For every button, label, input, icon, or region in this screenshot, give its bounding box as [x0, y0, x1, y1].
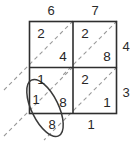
- cell-r1c2-upper-digit: 2: [78, 27, 92, 40]
- cell-r1c1-lower-digit: 4: [56, 50, 70, 63]
- result-digit-bottom-1: 1: [84, 118, 98, 131]
- result-digit-left-1: 1: [29, 93, 43, 106]
- top-label-6: 6: [44, 4, 58, 17]
- lattice-diagram-canvas: [0, 0, 136, 149]
- cell-r1c2-lower-digit: 8: [100, 50, 114, 63]
- cell-r2c2-upper-digit: 2: [78, 73, 92, 86]
- result-digit-bottom-8: 8: [45, 118, 59, 131]
- right-label-3: 3: [119, 86, 133, 99]
- top-label-7: 7: [88, 4, 102, 17]
- diagonal-lines-group: [2, 21, 117, 140]
- cell-r2c1-upper-digit: 1: [34, 73, 48, 86]
- cell-r1c1-upper-digit: 2: [34, 27, 48, 40]
- lattice-multiplication-diagram: 6 7 4 3 2 4 2 8 1 8 2 1 1 8 1: [0, 0, 136, 149]
- cell-r2c2-lower-digit: 1: [100, 96, 114, 109]
- cell-r2c1-lower-digit: 8: [56, 96, 70, 109]
- right-label-4: 4: [119, 40, 133, 53]
